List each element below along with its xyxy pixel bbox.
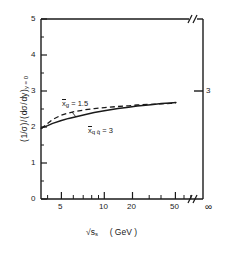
x-axis-title-sub: s [95,231,98,237]
x-tick-label-infinity: ∞ [205,202,212,212]
y-tick-label-1: 1 [31,159,35,167]
annotation-gluon-symbol: x [62,100,66,108]
figure-container: 0 1 2 3 4 5 3 5 10 20 50 ∞ √ss ( GeV ) (… [0,0,234,256]
annotation-quark: xq q̄ = 3 [88,127,113,135]
annotation-quark-value: = 3 [100,126,113,135]
axis-frame [41,19,203,199]
y-tick-label-5: 5 [31,15,35,23]
annotation-leaders [72,112,76,117]
x-tick-label-5: 5 [58,203,62,211]
annotation-quark-symbol: x [88,127,92,135]
y-tick-label-2: 2 [31,123,35,131]
x-axis-title-root: √s [86,227,95,237]
annotation-quark-subscript: q q̄ [92,129,100,135]
x-axis-major-ticks [61,192,175,199]
y-tick-label-0: 0 [31,195,35,203]
x-tick-label-20: 20 [127,203,136,211]
annotation-gluon-value: = 1.5 [69,99,88,108]
annotation-gluon: xg = 1.5 [62,100,88,108]
x-axis-title-unit: ( GeV ) [110,227,137,237]
y-axis-title-text: ( 1/σ ) / ( dσ / dy ) [19,89,29,142]
x-tick-label-50: 50 [170,203,179,211]
y-axis-title: ( 1/σ ) / ( dσ / dy )y = 0 [19,39,29,179]
y-axis-title-subscript: y = 0 [23,76,29,89]
x-axis-title: √ss ( GeV ) [86,228,137,237]
axis-break-marks [188,15,197,203]
x-tick-label-10: 10 [99,203,108,211]
y-tick-label-4: 4 [31,51,35,59]
y-right-tick-label-3: 3 [206,87,210,95]
y-tick-label-3: 3 [31,87,35,95]
